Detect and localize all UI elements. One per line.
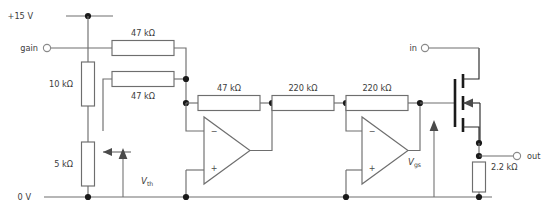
ground-rail	[44, 194, 492, 200]
node-gnd-divider	[85, 194, 91, 200]
resistor-input-47k	[186, 96, 272, 111]
label-v-th: Vth	[141, 176, 153, 187]
opamp-2: − +	[362, 103, 420, 184]
output-terminal-wire	[479, 152, 521, 159]
label-gain-terminal: gain	[20, 43, 38, 53]
bus-node-column	[183, 76, 189, 106]
supply-rail-positive	[66, 13, 113, 62]
label-supply-positive: +15 V	[8, 11, 34, 21]
label-resistor-2k2: 2.2 kΩ	[491, 162, 518, 172]
pot-wiper-arrow	[103, 148, 112, 156]
label-resistor-5k: 5 kΩ	[54, 159, 73, 169]
svg-text:−: −	[211, 127, 218, 136]
node-feedback-junction	[183, 76, 189, 82]
label-ground: 0 V	[18, 192, 32, 202]
resistor-feedback-lower	[103, 72, 186, 132]
node-gnd-load	[476, 194, 482, 200]
resistor-10k-body	[82, 62, 95, 106]
resistor-220k-stage2	[346, 96, 420, 111]
out-terminal-circle[interactable]	[513, 152, 520, 159]
svg-text:+: +	[369, 164, 376, 173]
svg-text:−: −	[369, 127, 376, 136]
label-resistor-10k: 10 kΩ	[49, 79, 73, 89]
mosfet-body-arrow	[463, 99, 473, 108]
label-resistor-220k-stage1: 220 kΩ	[288, 83, 317, 93]
opamp-1: − +	[204, 103, 272, 184]
mosfet-q1	[455, 48, 480, 143]
label-resistor-feedback-lower: 47 kΩ	[131, 91, 155, 101]
label-v-gs: Vgs	[408, 157, 421, 169]
node-gnd-opamp2	[343, 194, 349, 200]
resistor-5k-body	[82, 142, 95, 186]
label-resistor-220k-stage2: 220 kΩ	[362, 83, 391, 93]
node-gnd-opamp1	[183, 194, 189, 200]
opamp2-input-wiring	[346, 103, 362, 197]
v-th-arrow	[119, 148, 128, 197]
in-terminal-circle[interactable]	[421, 44, 428, 51]
svg-text:+: +	[211, 164, 218, 173]
gain-terminal-wire	[43, 44, 112, 51]
circuit-diagram: − + − +	[0, 0, 545, 217]
input-terminal-wire	[421, 44, 479, 51]
label-in-terminal: in	[410, 43, 417, 53]
label-out-terminal: out	[527, 151, 541, 161]
opamp1-input-wiring	[186, 103, 204, 197]
resistor-220k-stage1	[272, 96, 346, 111]
gain-terminal-circle[interactable]	[43, 44, 50, 51]
resistor-load-2k2	[473, 162, 486, 197]
label-resistor-feedback-top: 47 kΩ	[131, 28, 155, 38]
v-gs-arrow	[430, 120, 439, 197]
label-resistor-input-47k: 47 kΩ	[217, 83, 241, 93]
